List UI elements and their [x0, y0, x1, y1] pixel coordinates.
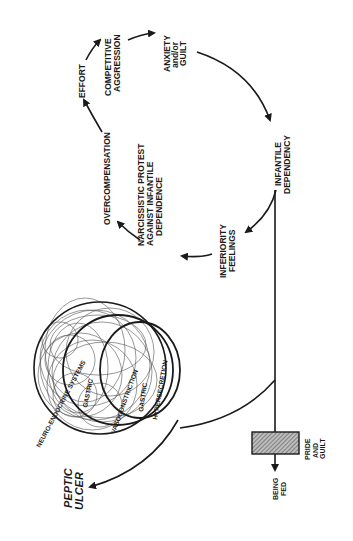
- label-overcompensation: OVERCOMPENSATION: [102, 132, 112, 225]
- arrow-effort-to-aggression: [86, 40, 100, 60]
- label-effort: EFFORT: [77, 63, 87, 98]
- arrow-overcompensation-to-effort: [84, 100, 102, 132]
- arrow-inferiority-to-narcissistic: [182, 254, 212, 257]
- arrow-anxiety-to-dependency: [197, 52, 270, 120]
- arrow-dependency-to-inferiority: [246, 190, 276, 232]
- psychosomatic-cycle-diagram: ANXIETY and/or GUILT COMPETITIVE AGGRESS…: [0, 0, 353, 541]
- arrow-to-peptic-ulcer: [90, 420, 178, 487]
- label-infantile-dependency: INFANTILE DEPENDENCY: [273, 135, 292, 194]
- label-anxiety: ANXIETY and/or GUILT: [162, 33, 188, 72]
- cycle-labels: ANXIETY and/or GUILT COMPETITIVE AGGRESS…: [77, 33, 292, 278]
- label-competitive-aggression: COMPETITIVE AGGRESSION: [103, 34, 122, 96]
- arrow-aggression-to-anxiety: [128, 33, 154, 40]
- label-neuro-endocrine: NEURO-ENDOCRINE SYSTEMS: [35, 359, 87, 449]
- pride-guilt-block: [252, 432, 299, 454]
- label-gastric-vaso-1: GASTRIC: [81, 378, 94, 408]
- label-gastric-hyper-1: GASTRIC: [137, 382, 148, 412]
- label-peptic-ulcer: PEPTIC ULCER: [62, 465, 85, 510]
- label-being-fed: BEING FED: [272, 476, 287, 500]
- label-inferiority-feelings: INFERIORITY FEELINGS: [218, 222, 237, 278]
- label-pride-and-guilt: PRIDE AND GUILT: [304, 437, 326, 460]
- trunk-to-hypersecretion-curve: [180, 380, 275, 428]
- label-narcissistic-protest: NARCISSISTIC PROTEST AGAINST INFANTILE D…: [136, 141, 164, 246]
